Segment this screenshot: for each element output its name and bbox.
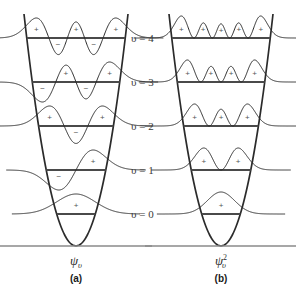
sign-marker-plus: + [236, 25, 241, 34]
sign-marker-plus: + [100, 113, 105, 122]
sign-marker-minus: − [84, 84, 89, 93]
sign-marker-plus: + [219, 26, 224, 35]
sign-marker-plus: + [91, 157, 96, 166]
figure-canvas: +−+−+−+−++−+−++ +++++++++++++++ υ = 4υ =… [0, 0, 296, 288]
sign-marker-minus: − [74, 128, 79, 137]
sign-marker-plus: + [258, 25, 263, 34]
sign-marker-plus: + [245, 113, 250, 122]
panel-letter-a: (a) [70, 273, 82, 284]
sign-marker-plus: + [229, 69, 234, 78]
level-label-v4: υ = 4 [131, 32, 154, 44]
sign-marker-plus: + [113, 25, 118, 34]
sign-marker-minus: − [91, 40, 96, 49]
sign-marker-plus: + [185, 69, 190, 78]
sign-marker-minus: − [57, 172, 62, 181]
panel-caption-b: ψ2υ [215, 253, 227, 270]
sign-marker-minus: − [40, 84, 45, 93]
level-label-v3: υ = 3 [131, 76, 154, 88]
sign-marker-plus: + [34, 25, 39, 34]
sign-marker-plus: + [192, 113, 197, 122]
level-label-v1: υ = 1 [131, 164, 154, 176]
level-label-v0: υ = 0 [131, 208, 154, 220]
sign-marker-plus: + [201, 25, 206, 34]
sign-marker-plus: + [107, 69, 112, 78]
sign-marker-plus: + [219, 113, 224, 122]
sign-marker-plus: + [236, 157, 241, 166]
sign-marker-plus: + [252, 69, 257, 78]
level-label-v2: υ = 2 [131, 120, 154, 132]
sign-marker-plus: + [47, 113, 52, 122]
sign-marker-plus: + [74, 201, 79, 210]
sign-marker-plus: + [64, 69, 69, 78]
sign-marker-plus: + [74, 25, 79, 34]
sign-marker-plus: + [209, 69, 214, 78]
panel-letter-b: (b) [215, 273, 228, 284]
harmonic-oscillator-figure: +−+−+−+−++−+−++ +++++++++++++++ υ = 4υ =… [0, 0, 296, 288]
sign-marker-plus: + [202, 157, 207, 166]
sign-marker-plus: + [179, 25, 184, 34]
sign-marker-plus: + [219, 201, 224, 210]
sign-marker-minus: − [56, 40, 61, 49]
